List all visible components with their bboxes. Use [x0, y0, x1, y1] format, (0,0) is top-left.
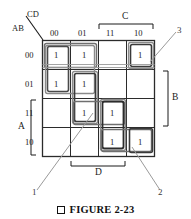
column-header-10: 10 [134, 29, 143, 38]
corner-label-cd: CD [27, 10, 39, 19]
row-header-00: 00 [25, 51, 34, 60]
callout-number-1: 1 [32, 188, 37, 197]
corner-label-ab: AB [12, 24, 24, 33]
bracket-label-c: C [122, 12, 128, 22]
bracket-label-b: B [172, 93, 178, 103]
kmap-cell-r10-c10: 1 [138, 138, 142, 147]
column-header-01: 01 [78, 29, 87, 38]
caption-square-icon [57, 206, 65, 214]
bracket-label-a: A [18, 122, 25, 132]
callout-number-3: 3 [177, 26, 182, 35]
kmap-cell-r01-c01: 1 [82, 80, 86, 89]
row-header-10: 10 [25, 138, 34, 147]
column-header-00: 00 [50, 29, 59, 38]
kmap-cell-r11-c11: 1 [110, 109, 114, 118]
row-header-01: 01 [25, 80, 34, 89]
kmap-cell-r00-c00: 1 [54, 51, 58, 60]
kmap-cell-r01-c00: 1 [54, 80, 58, 89]
caption-text: FIGURE 2-23 [70, 204, 135, 215]
figure-karnaugh-map: CD AB 00 01 11 10 00 01 11 10 C D B A 1 … [0, 0, 191, 219]
kmap-cell-r11-c01: 1 [82, 109, 86, 118]
bracket-label-d: D [95, 168, 102, 178]
callout-number-2: 2 [158, 188, 163, 197]
callout-leader-2 [132, 147, 160, 190]
corner-slash [26, 16, 43, 40]
row-header-11: 11 [25, 109, 33, 118]
kmap-cell-r00-c01: 1 [82, 51, 86, 60]
figure-caption: FIGURE 2-23 [0, 204, 191, 215]
kmap-cell-r10-c11: 1 [110, 138, 114, 147]
bracket-B [163, 71, 168, 126]
callout-leader-1 [37, 113, 93, 190]
kmap-cell-r00-c10: 1 [138, 51, 142, 60]
bracket-D [71, 161, 125, 166]
column-header-11: 11 [106, 29, 114, 38]
